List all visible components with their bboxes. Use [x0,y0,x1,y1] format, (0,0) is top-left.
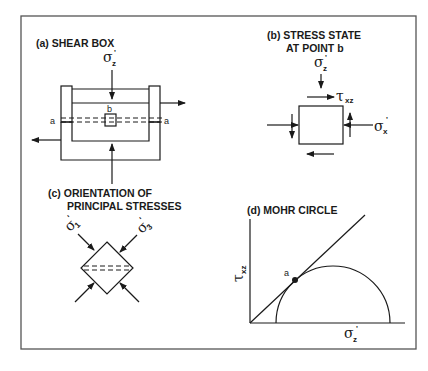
svg-text:τ: τ [230,274,246,282]
panel-a-shear-box: (a) SHEAR BOX σ z ' b a a [32,37,185,184]
svg-text:': ' [325,53,327,62]
point-b-label: b [107,104,112,114]
panel-a-title: (a) SHEAR BOX [36,37,114,49]
sigma-3-label: σ 3 ' [131,214,154,237]
shear-box-figure: (a) SHEAR BOX σ z ' b a a (b) STRESS STA… [0,0,428,371]
rotated-element [81,242,133,294]
svg-text:': ' [114,48,116,57]
stress-element [299,106,343,144]
tangent-point [292,277,298,283]
figure-frame [21,16,416,349]
sigma-1-top-arrow [78,234,94,250]
plane-label-right: a [164,116,169,126]
svg-text:z: z [112,59,116,68]
mohr-semicircle [276,266,390,323]
panel-a-normal-stress-label: σ z ' [103,48,116,68]
svg-text:': ' [386,115,388,124]
panel-c-title-line2: PRINCIPAL STRESSES [67,200,182,212]
panel-b-stress-state: (b) STRESS STATE AT POINT b σ z ' τ xz σ… [267,29,388,154]
panel-b-title-line1: (b) STRESS STATE [267,29,361,41]
panel-b-sigma-z-label: σ z ' [314,53,327,73]
tau-axis-label: τ xz [230,266,248,282]
svg-text:τ: τ [336,88,344,104]
panel-b-title-line2: AT POINT b [286,42,344,54]
failure-envelope [250,215,365,323]
panel-c-title-line1: (c) ORIENTATION OF [48,187,153,199]
upper-right-block [149,86,160,122]
svg-text:z: z [353,335,357,344]
svg-text:z: z [323,64,327,73]
svg-text:x: x [383,127,388,136]
svg-text:xz: xz [239,266,248,274]
sigma-1-bottom-arrow [120,283,139,302]
panel-b-sigma-x-label: σ x ' [374,115,388,136]
element-b [105,114,116,126]
panel-c-principal-stresses: (c) ORIENTATION OF PRINCIPAL STRESSES σ … [48,187,182,302]
sigma-3-bottom-arrow [75,283,94,302]
plane-label-left: a [50,116,55,126]
panel-d-title: (d) MOHR CIRCLE [247,204,337,216]
tau-xz-label: τ xz [336,88,353,105]
svg-text:': ' [356,324,358,333]
svg-text:xz: xz [345,96,353,105]
sigma-axis-label: σ z ' [344,324,358,344]
sigma-3-top-arrow [120,235,137,252]
panel-d-mohr-circle: (d) MOHR CIRCLE τ xz σ z ' a [230,204,405,344]
sigma-1-label: σ 1 ' [59,212,82,235]
tangent-point-label: a [284,268,289,278]
upper-left-block [61,86,72,122]
